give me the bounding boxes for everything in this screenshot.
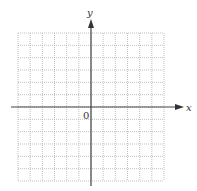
coordinate-plane: x y 0 <box>0 0 197 191</box>
x-axis-label: x <box>186 102 192 113</box>
origin-label: 0 <box>83 110 89 121</box>
x-axis-arrow-icon <box>175 104 184 110</box>
y-axis-label: y <box>86 7 93 18</box>
y-axis-arrow-icon <box>88 19 94 28</box>
